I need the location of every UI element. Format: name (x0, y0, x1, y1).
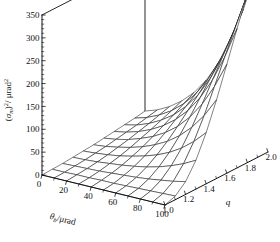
y-tick-label: 1.2 (183, 194, 194, 204)
figure-3d-surface-plot: 0501001502002503003500204060801001.01.21… (0, 0, 280, 242)
surface-cell (215, 28, 238, 86)
y-minor-tick (236, 166, 237, 168)
y-tick-label: 1.0 (162, 205, 174, 215)
x-tick-label: 20 (59, 185, 69, 195)
z-tick-label: 350 (26, 10, 40, 20)
x-axis-title: θb/μrad (48, 211, 77, 228)
z-tick-label: 50 (31, 147, 41, 157)
box-top-left-edge (42, 0, 145, 15)
y-tick-label: 1.8 (245, 163, 257, 173)
y-tick-label: 1.6 (224, 173, 236, 183)
y-minor-tick (195, 187, 196, 189)
x-tick-label: 60 (108, 197, 118, 207)
z-tick-label: 300 (26, 33, 40, 43)
z-axis-title: (σm)2/ μrad2 (2, 79, 14, 121)
z-tick-label: 200 (26, 79, 40, 89)
plot-canvas: 0501001502002503003500204060801001.01.21… (0, 0, 280, 242)
x-tick-label: 40 (84, 191, 94, 201)
x-tick-label: 80 (133, 203, 143, 213)
z-tick-label: 100 (26, 124, 40, 134)
y-minor-tick (175, 198, 176, 200)
y-axis-title: q (226, 197, 231, 207)
z-tick-label: 150 (26, 102, 40, 112)
y-tick-label: 1.4 (204, 184, 216, 194)
y-minor-tick (216, 176, 217, 178)
x-tick-label: 0 (37, 179, 42, 189)
y-minor-tick (257, 155, 258, 157)
z-tick-label: 250 (26, 56, 40, 66)
y-tick-label: 2.0 (265, 152, 277, 162)
